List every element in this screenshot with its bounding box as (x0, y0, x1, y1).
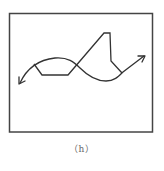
diagram-figure: （h） (0, 0, 164, 171)
polyline-path (34, 33, 122, 75)
figure-caption: （h） (0, 142, 164, 155)
diagram-frame (10, 14, 153, 133)
